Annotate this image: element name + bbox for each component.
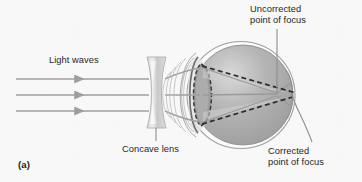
panel-label: (a) <box>18 160 30 171</box>
label-concave-lens: Concave lens <box>122 144 179 155</box>
label-uncorrected-point-of-focus: Uncorrected point of focus <box>250 4 306 25</box>
label-corrected-point-of-focus: Corrected point of focus <box>268 146 324 167</box>
incoming-light-rays <box>16 79 149 111</box>
label-light-waves: Light waves <box>49 55 99 66</box>
leader-corrected <box>291 93 312 142</box>
